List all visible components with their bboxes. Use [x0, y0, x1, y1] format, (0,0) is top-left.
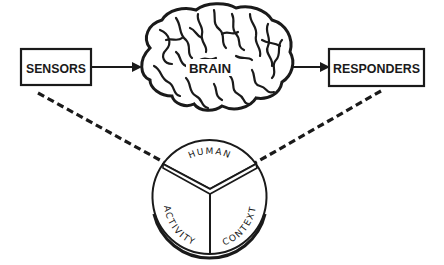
diagram-canvas: SENSORS BRAIN — [0, 0, 444, 265]
sensors-node: SENSORS — [21, 49, 91, 85]
responders-label: RESPONDERS — [333, 61, 420, 76]
dashed-line-left — [38, 93, 167, 164]
brain-node: BRAIN — [142, 4, 293, 111]
brain-label: BRAIN — [189, 61, 231, 76]
dashed-line-right — [255, 91, 381, 163]
sensors-label: SENSORS — [26, 61, 86, 76]
hac-model: HUMAN ACTIVITY CONTEXT — [153, 140, 267, 258]
responders-node: RESPONDERS — [329, 49, 424, 86]
